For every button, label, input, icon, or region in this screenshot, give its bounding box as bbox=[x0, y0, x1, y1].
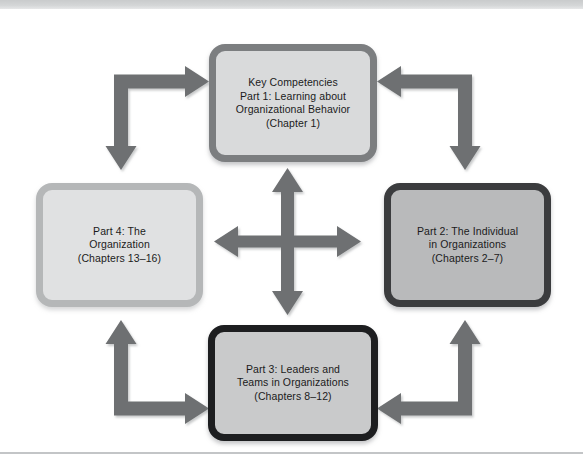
part-2-box[interactable]: Part 2: The Individualin Organizations(C… bbox=[384, 183, 551, 307]
part-2-label: Part 2: The Individualin Organizations(C… bbox=[409, 225, 526, 266]
part-4-label: Part 4: TheOrganization(Chapters 13–16) bbox=[70, 225, 169, 266]
center-cross-arrow bbox=[214, 168, 361, 315]
part-1-label: Key CompetenciesPart 1: Learning aboutOr… bbox=[228, 76, 358, 130]
elbow-bottom-left-arrow bbox=[106, 320, 210, 424]
part-1-box[interactable]: Key CompetenciesPart 1: Learning aboutOr… bbox=[209, 44, 377, 162]
part-3-label: Part 3: Leaders andTeams in Organization… bbox=[229, 363, 357, 404]
figure-canvas: Key CompetenciesPart 1: Learning aboutOr… bbox=[0, 0, 583, 468]
part-3-box[interactable]: Part 3: Leaders andTeams in Organization… bbox=[208, 325, 378, 441]
elbow-bottom-right-arrow bbox=[377, 320, 481, 424]
elbow-top-left-arrow bbox=[106, 66, 210, 170]
elbow-top-right-arrow bbox=[377, 66, 481, 170]
part-4-box[interactable]: Part 4: TheOrganization(Chapters 13–16) bbox=[36, 183, 203, 307]
